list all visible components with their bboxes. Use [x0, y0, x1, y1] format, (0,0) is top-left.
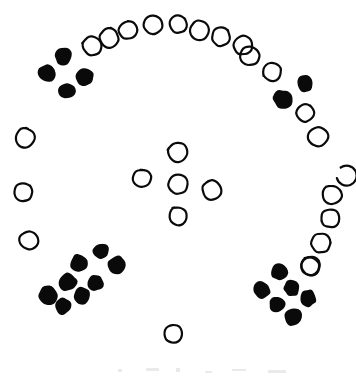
scan-artifact-mark [118, 369, 122, 372]
figure-container [0, 0, 356, 377]
scan-artifact-mark [232, 369, 246, 371]
scan-artifact-mark [176, 368, 180, 372]
scan-artifact-mark [146, 368, 159, 371]
scan-artifact-layer [0, 0, 356, 377]
scan-artifact-mark [205, 371, 212, 373]
scan-artifact-mark [268, 370, 286, 373]
